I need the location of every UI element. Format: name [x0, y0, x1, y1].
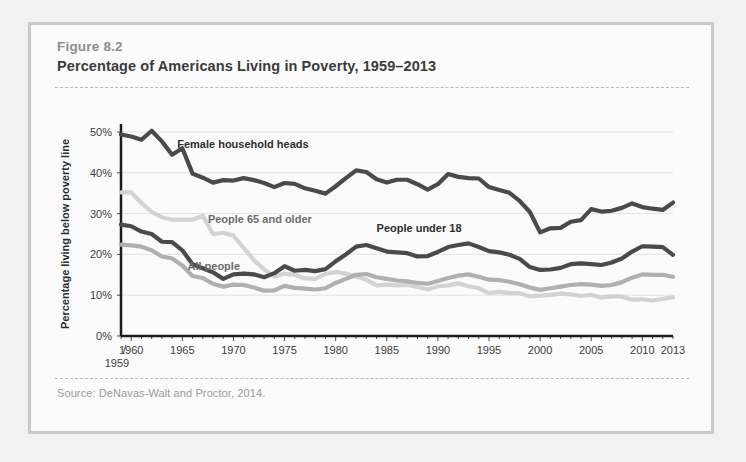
y-tick-label: 20% [90, 248, 112, 260]
x-tick-label: 1970 [221, 344, 245, 356]
figure-number: Figure 8.2 [57, 39, 123, 54]
x-origin-label: 1959 [105, 357, 129, 369]
divider-bottom [55, 378, 689, 379]
x-tick-label: 2013 [661, 344, 685, 356]
chart-plot-area: 0%10%20%30%40%50%19601965197019751980198… [55, 91, 691, 376]
source-note: Source: DeNavas-Walt and Proctor, 2014. [57, 387, 265, 399]
series-label-female-household-heads: Female household heads [177, 138, 308, 150]
x-tick-label: 1995 [477, 344, 501, 356]
x-tick-label: 1990 [426, 344, 450, 356]
x-tick-label: 2005 [579, 344, 603, 356]
y-tick-label: 40% [90, 167, 112, 179]
x-tick-label: 1965 [170, 344, 194, 356]
divider-top [55, 87, 689, 88]
y-tick-label: 30% [90, 208, 112, 220]
figure-title: Percentage of Americans Living in Povert… [57, 58, 436, 74]
x-tick-label: 1980 [323, 344, 347, 356]
x-tick-label: 1975 [272, 344, 296, 356]
x-tick-label: 2010 [630, 344, 654, 356]
poverty-line-chart: 0%10%20%30%40%50%19601965197019751980198… [55, 91, 691, 376]
x-tick-label: 2000 [528, 344, 552, 356]
series-label-people-65-and-older: People 65 and older [208, 213, 313, 225]
y-tick-label: 10% [90, 289, 112, 301]
series-label-people-under-18: People under 18 [377, 222, 462, 234]
y-tick-label: 50% [90, 126, 112, 138]
y-axis-title: Percentage living below poverty line [59, 139, 71, 329]
x-tick-label: 1985 [375, 344, 399, 356]
y-tick-label: 0% [96, 330, 112, 342]
series-label-all-people: All people [187, 260, 240, 272]
figure-panel: Figure 8.2 Percentage of Americans Livin… [28, 22, 714, 434]
